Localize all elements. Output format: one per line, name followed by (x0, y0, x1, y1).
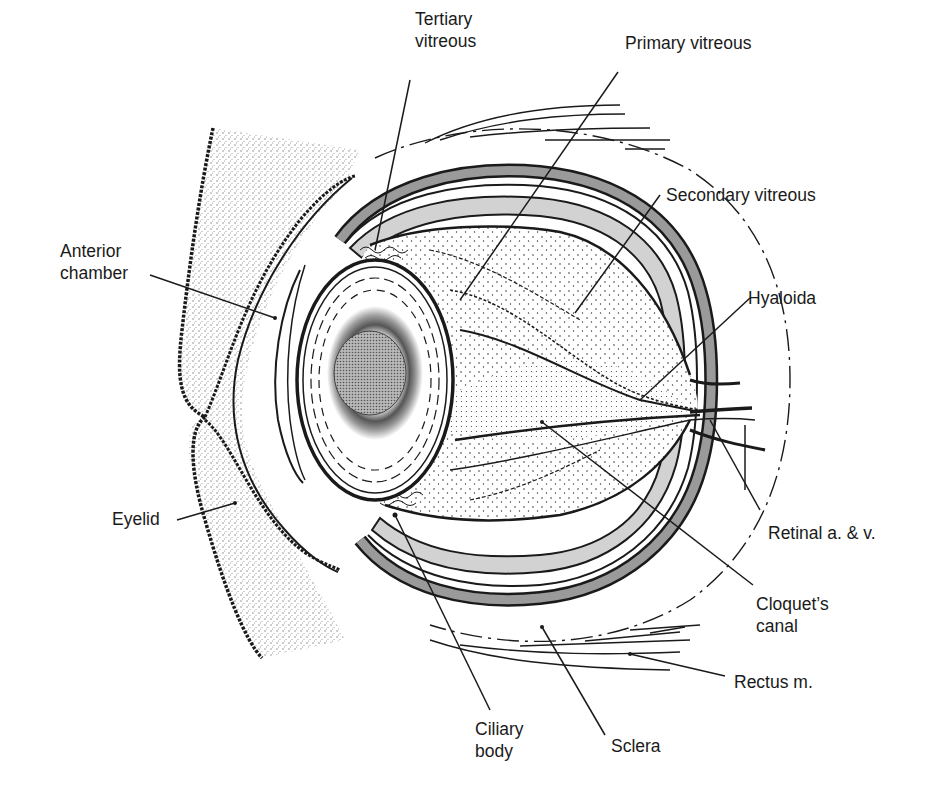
label-rectus-muscle: Rectus m. (734, 671, 813, 693)
rectus-muscle-top (425, 105, 670, 149)
label-eyelid: Eyelid (112, 508, 160, 530)
label-anterior-chamber: Anterior chamber (60, 240, 128, 284)
label-hyaloida: Hyaloida (748, 287, 816, 309)
label-primary-vitreous: Primary vitreous (625, 32, 751, 54)
label-tertiary-vitreous: Tertiary vitreous (415, 8, 476, 52)
label-sclera: Sclera (611, 735, 661, 757)
label-retinal-vessels: Retinal a. & v. (768, 522, 876, 544)
label-cloquets-canal: Cloquet’s canal (756, 593, 829, 637)
lens (297, 260, 453, 500)
rectus-muscle-bottom (430, 625, 700, 670)
label-ciliary-body: Ciliary body (475, 718, 524, 762)
label-secondary-vitreous: Secondary vitreous (666, 184, 816, 206)
